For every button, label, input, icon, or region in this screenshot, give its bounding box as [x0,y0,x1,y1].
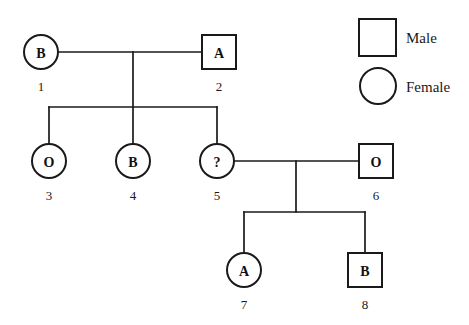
legend-label-female: Female [406,79,450,95]
genotype-label-8: B [360,264,369,279]
pedigree-chart: B 1 A 2 O 3 B 4 ? 5 O [0,0,469,325]
id-label-2: 2 [216,79,223,94]
individual-2[interactable]: A 2 [202,35,236,94]
legend-entry-female: Female [360,68,450,104]
descent-group-1-2 [49,52,217,144]
legend-label-male: Male [406,30,437,46]
legend-entry-male: Male [359,19,437,56]
id-label-7: 7 [241,297,248,312]
id-label-8: 8 [362,297,369,312]
id-label-3: 3 [46,188,53,203]
individual-5[interactable]: ? 5 [200,144,234,203]
square-icon-legend-male [359,19,396,56]
genotype-label-2: A [214,46,225,61]
individual-8[interactable]: B 8 [348,253,382,312]
individual-4[interactable]: B 4 [116,144,150,203]
id-label-6: 6 [373,188,380,203]
individual-6[interactable]: O 6 [359,144,393,203]
circle-icon-legend-female [360,68,396,104]
id-label-1: 1 [38,79,45,94]
genotype-label-4: B [128,155,137,170]
genotype-label-5: ? [214,155,221,170]
id-label-5: 5 [214,188,221,203]
individual-7[interactable]: A 7 [227,253,261,312]
genotype-label-6: O [371,155,382,170]
genotype-label-3: O [44,155,55,170]
id-label-4: 4 [130,188,137,203]
legend: Male Female [359,19,450,104]
pedigree-canvas: B 1 A 2 O 3 B 4 ? 5 O [0,0,469,325]
descent-group-5-6 [244,161,365,253]
genotype-label-7: A [239,264,250,279]
individual-3[interactable]: O 3 [32,144,66,203]
individual-1[interactable]: B 1 [24,35,58,94]
genotype-label-1: B [36,46,45,61]
